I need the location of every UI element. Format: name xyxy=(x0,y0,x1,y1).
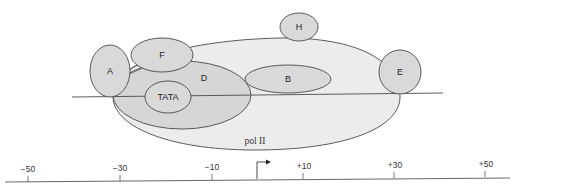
tick-label-minus-30: −30 xyxy=(113,163,128,173)
position-axis xyxy=(5,178,510,182)
factor-b-label: B xyxy=(285,74,291,84)
tata-box-label: TATA xyxy=(158,92,179,102)
preinitiation-complex-diagram: A F D TATA B H E pol II −50 −30 −10 +10 … xyxy=(0,0,567,189)
transcription-start-arrow-icon xyxy=(257,160,271,180)
pol-ii-label: pol II xyxy=(245,136,266,146)
tick-label-plus-30: +30 xyxy=(388,160,403,170)
tick-label-minus-50: −50 xyxy=(21,164,36,174)
tick-label-plus-50: +50 xyxy=(479,159,494,169)
factor-h-label: H xyxy=(296,22,303,32)
factor-a-label: A xyxy=(107,66,113,76)
tick-label-plus-10: +10 xyxy=(297,161,312,171)
factor-d-label: D xyxy=(201,73,208,83)
factor-f-label: F xyxy=(159,50,165,60)
factor-e-label: E xyxy=(397,67,403,77)
tick-label-minus-10: −10 xyxy=(205,162,220,172)
